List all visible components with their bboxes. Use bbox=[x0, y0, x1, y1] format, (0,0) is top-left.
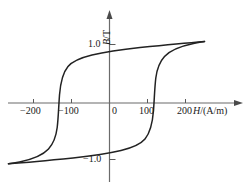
y-tick-label-negative-one: −1.0 bbox=[83, 154, 101, 164]
x-axis-arrow-icon bbox=[234, 100, 243, 106]
hysteresis-loop-figure: B/T H/(A/m) 1.0 −1.0 −200 −100 0 100 200 bbox=[0, 0, 251, 190]
y-axis-ticks bbox=[110, 45, 116, 160]
x-tick-label-100: 100 bbox=[139, 106, 154, 116]
y-tick-label-positive-one: 1.0 bbox=[88, 39, 101, 49]
plot-canvas bbox=[0, 0, 251, 190]
x-axis-title: H/(A/m) bbox=[193, 106, 227, 116]
y-axis-arrow-icon bbox=[107, 10, 113, 19]
y-axis-title-units: /T bbox=[101, 30, 112, 39]
x-tick-label--100: −100 bbox=[58, 106, 79, 116]
y-axis-title-variable: B bbox=[101, 39, 112, 45]
x-axis-title-units: /(A/m) bbox=[200, 105, 227, 116]
x-tick-label-200: 200 bbox=[177, 106, 192, 116]
y-axis-title: B/T bbox=[102, 30, 112, 45]
x-tick-label--200: −200 bbox=[20, 106, 41, 116]
x-tick-label-0: 0 bbox=[112, 106, 117, 116]
